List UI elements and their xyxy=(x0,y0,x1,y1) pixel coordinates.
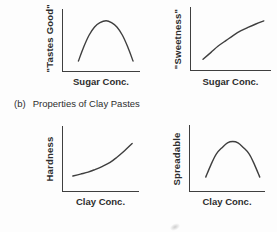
x-axis-label-sugar-conc-2: Sugar Conc. xyxy=(190,76,271,88)
plot-area-hardness xyxy=(62,126,139,192)
plot-area-tastes-good xyxy=(62,9,140,72)
curve-tastes-good xyxy=(63,9,140,71)
curve-spreadable xyxy=(190,125,265,191)
x-axis-label-sugar-conc-1: Sugar Conc. xyxy=(62,76,140,88)
x-axis-label-clay-conc-2: Clay Conc. xyxy=(189,196,265,208)
y-axis-label-hardness: Hardness xyxy=(43,126,57,192)
y-axis-label-tastes-good: "Tastes Good" xyxy=(43,10,57,73)
y-axis-label-sweetness: "Sweetness" xyxy=(171,7,185,71)
scan-smudge-artifact xyxy=(169,222,181,232)
figure-caption: (b)Properties of Clay Pastes xyxy=(14,98,140,109)
curve-sweetness xyxy=(191,7,271,70)
plot-area-sweetness xyxy=(190,7,271,71)
figure-canvas: "Tastes Good" Sugar Conc. "Sweetness" Su… xyxy=(0,0,277,232)
plot-area-spreadable xyxy=(189,125,265,192)
caption-prefix: (b) xyxy=(14,98,26,109)
x-axis-label-clay-conc-1: Clay Conc. xyxy=(62,196,139,208)
y-axis-label-spreadable: Spreadable xyxy=(170,126,184,193)
curve-hardness xyxy=(63,126,139,191)
caption-text: Properties of Clay Pastes xyxy=(33,98,140,109)
